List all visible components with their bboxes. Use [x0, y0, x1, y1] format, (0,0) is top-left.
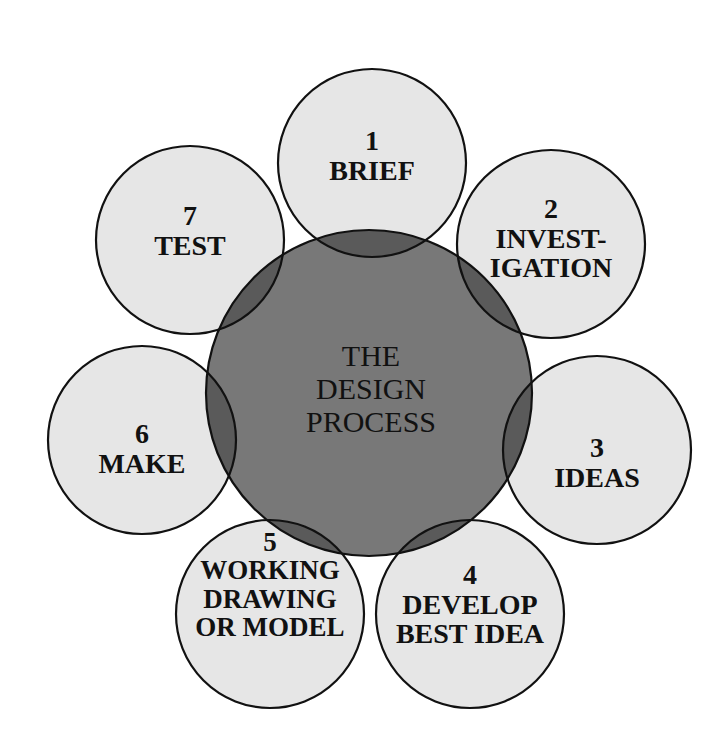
step-title: BEST IDEA [396, 618, 545, 649]
step-title: BRIEF [329, 155, 415, 186]
step-title: WORKING [200, 555, 340, 585]
step-number: 3 [590, 432, 604, 463]
step-title: OR MODEL [195, 612, 344, 642]
step-title: DEVELOP [402, 589, 537, 620]
step-number: 7 [183, 200, 197, 231]
step-title: IDEAS [554, 462, 640, 493]
step-title: TEST [154, 230, 226, 261]
center-title-line: DESIGN [316, 372, 426, 405]
step-number: 6 [135, 418, 149, 449]
design-process-diagram: 1BRIEF2INVEST-IGATION3IDEAS4DEVELOPBEST … [0, 0, 722, 750]
step-number: 5 [263, 527, 277, 557]
step-title: MAKE [98, 448, 185, 479]
center-title-line: PROCESS [306, 405, 436, 438]
step-title: INVEST- [495, 223, 606, 254]
step-number: 4 [463, 559, 477, 590]
step-title: DRAWING [203, 584, 337, 614]
step-number: 2 [544, 193, 558, 224]
step-number: 1 [365, 125, 379, 156]
step-title: IGATION [490, 252, 612, 283]
center-title-line: THE [342, 339, 400, 372]
